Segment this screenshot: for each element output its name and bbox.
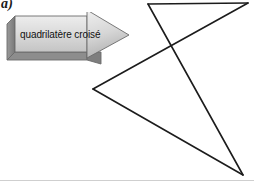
callout-label: quadrilatère croisé: [20, 28, 106, 42]
bottom-rule: [0, 180, 254, 181]
arrow-bottom-extrusion: [7, 52, 87, 60]
edge-a-b: [148, 3, 248, 4]
figure-canvas: a): [0, 0, 254, 182]
edge-c-d: [93, 89, 243, 175]
edge-d-a: [148, 4, 243, 175]
